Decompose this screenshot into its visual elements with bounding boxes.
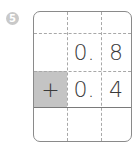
cell-r0-tenths[interactable]	[101, 12, 131, 33]
problem-number-badge: 5	[6, 12, 19, 25]
answer-cell-ones[interactable]	[67, 107, 101, 141]
cell-r1-ones: 0.	[67, 33, 101, 71]
row-divider	[34, 71, 131, 72]
row-divider	[34, 33, 131, 34]
cell-r0-ones[interactable]	[67, 12, 101, 33]
sum-line	[34, 107, 131, 108]
answer-cell-tenths[interactable]	[101, 107, 131, 141]
operator-cell: +	[34, 71, 67, 107]
cell-r1-op	[34, 33, 67, 71]
answer-cell-op[interactable]	[34, 107, 67, 141]
cell-r2-tenths: 4	[101, 71, 131, 107]
column-divider	[101, 12, 102, 141]
addition-grid: 0. 8 + 0. 4	[33, 11, 132, 142]
cell-r0-op[interactable]	[34, 12, 67, 33]
column-divider	[67, 12, 68, 141]
cell-r1-tenths: 8	[101, 33, 131, 71]
cell-r2-ones: 0.	[67, 71, 101, 107]
